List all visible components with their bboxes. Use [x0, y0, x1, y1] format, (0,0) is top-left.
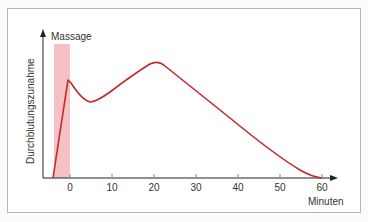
y-axis-arrow-icon — [40, 29, 46, 37]
massage-label: Massage — [51, 31, 92, 42]
svg-text:50: 50 — [274, 182, 286, 193]
svg-text:10: 10 — [106, 182, 118, 193]
x-axis-arrow-icon — [330, 175, 338, 181]
svg-text:40: 40 — [232, 182, 244, 193]
svg-text:20: 20 — [148, 182, 160, 193]
x-ticks — [70, 174, 322, 178]
svg-text:0: 0 — [67, 182, 73, 193]
svg-text:60: 60 — [316, 182, 328, 193]
svg-text:30: 30 — [190, 182, 202, 193]
blood-flow-curve — [53, 62, 322, 178]
x-axis-label: Minuten — [308, 196, 344, 207]
chart-svg: Massage Durchblutungszunahme Minuten 0 1… — [0, 0, 368, 222]
x-tick-labels: 0 10 20 30 40 50 60 — [67, 182, 328, 193]
y-axis-label: Durchblutungszunahme — [25, 58, 36, 164]
